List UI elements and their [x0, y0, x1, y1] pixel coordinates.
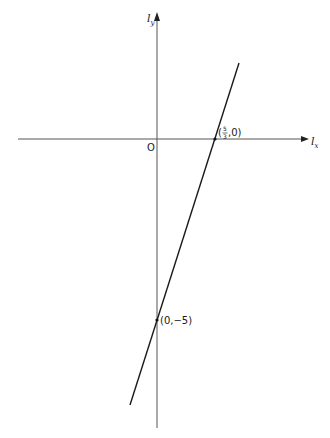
y-intercept-point	[155, 318, 158, 321]
svg-text:3: 3	[223, 133, 227, 140]
x-axis-arrowhead-icon	[301, 136, 309, 142]
svg-text:5: 5	[223, 125, 227, 132]
y-axis	[154, 12, 160, 428]
svg-text:,0): ,0)	[228, 127, 242, 138]
origin-label: O	[147, 142, 155, 153]
coordinate-diagram: ly lx O ( 5 3 ,0) (0,−5)	[0, 0, 330, 438]
plotted-line	[130, 63, 239, 405]
svg-text:(: (	[218, 127, 222, 138]
y-intercept-label: (0,−5)	[160, 315, 192, 326]
x-axis-label: lx	[311, 135, 319, 150]
x-intercept-point	[213, 137, 216, 140]
y-axis-label: ly	[147, 12, 156, 27]
x-intercept-label: ( 5 3 ,0)	[218, 125, 242, 140]
y-axis-arrowhead-icon	[154, 12, 160, 21]
x-axis	[18, 136, 309, 142]
